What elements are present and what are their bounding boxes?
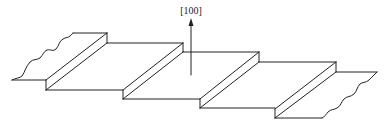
wavy-break-edge-right [322,72,377,118]
terrace-right [275,72,377,118]
terrace-left [12,33,107,80]
terrace-4 [200,62,336,108]
arrow-head-icon [189,18,194,26]
direction-arrow [189,18,194,75]
wavy-break-edge-left [12,33,73,80]
step-2 [123,43,183,99]
step-3 [200,52,259,108]
terrace-2 [46,43,183,90]
direction-label: [100] [180,5,202,16]
step-4 [275,62,336,118]
step-1 [46,33,107,90]
stepped-surface-diagram: [100] [0,0,387,128]
